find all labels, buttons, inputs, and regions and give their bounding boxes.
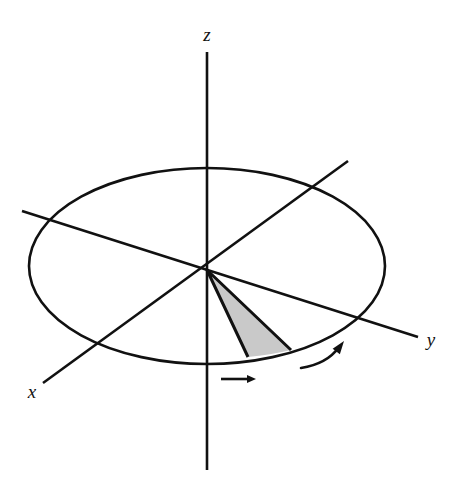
z-axis-label: z [202, 24, 211, 45]
figure-container: z y x [0, 0, 453, 498]
coordinate-axes-diagram: z y x [0, 0, 453, 498]
y-axis-label: y [425, 329, 436, 350]
x-axis-label: x [27, 381, 37, 402]
